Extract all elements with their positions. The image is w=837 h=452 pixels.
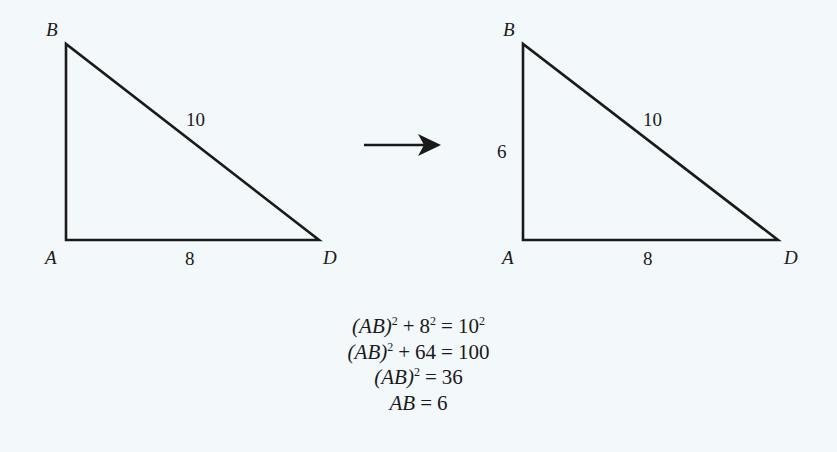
right-hypotenuse-length: 10: [643, 110, 662, 129]
eq4-lhs: AB: [390, 391, 416, 415]
equation-line-1: (AB)2+82=102: [0, 314, 837, 340]
eq1-rhs: 10: [458, 314, 479, 338]
left-vertex-a-label: A: [45, 248, 57, 267]
equation-block: (AB)2+82=102 (AB)2+64=100 (AB)2=36 AB=6: [0, 314, 837, 416]
eq4-equals: =: [420, 391, 432, 415]
eq3-lhs: (AB): [374, 365, 414, 389]
right-height-length: 6: [497, 142, 507, 161]
eq1-term-exponent: 2: [430, 314, 436, 328]
right-triangle: [523, 44, 778, 240]
equation-line-3: (AB)2=36: [0, 365, 837, 391]
eq3-rhs: 36: [442, 365, 463, 389]
left-hypotenuse-length: 10: [186, 110, 205, 129]
eq3-lhs-exponent: 2: [414, 365, 420, 379]
right-vertex-b-label: B: [503, 20, 515, 39]
left-vertex-d-label: D: [323, 248, 337, 267]
right-arrow-icon: [364, 134, 441, 156]
eq1-term: 8: [420, 314, 431, 338]
right-vertex-d-label: D: [784, 248, 798, 267]
eq1-lhs-exponent: 2: [392, 314, 398, 328]
left-triangle: [66, 44, 319, 240]
equation-line-4: AB=6: [0, 391, 837, 417]
eq2-plus: +: [398, 340, 410, 364]
eq3-equals: =: [425, 365, 437, 389]
equation-line-2: (AB)2+64=100: [0, 340, 837, 366]
left-base-length: 8: [185, 249, 195, 268]
eq2-rhs: 100: [458, 340, 490, 364]
eq1-rhs-exponent: 2: [479, 314, 485, 328]
eq2-lhs: (AB): [348, 340, 388, 364]
eq2-equals: =: [441, 340, 453, 364]
eq1-lhs: (AB): [352, 314, 392, 338]
eq2-term: 64: [415, 340, 436, 364]
eq2-lhs-exponent: 2: [387, 340, 393, 354]
eq1-equals: =: [441, 314, 453, 338]
eq4-rhs: 6: [437, 391, 448, 415]
right-base-length: 8: [643, 249, 653, 268]
right-vertex-a-label: A: [502, 248, 514, 267]
left-vertex-b-label: B: [46, 20, 58, 39]
eq1-plus: +: [403, 314, 415, 338]
